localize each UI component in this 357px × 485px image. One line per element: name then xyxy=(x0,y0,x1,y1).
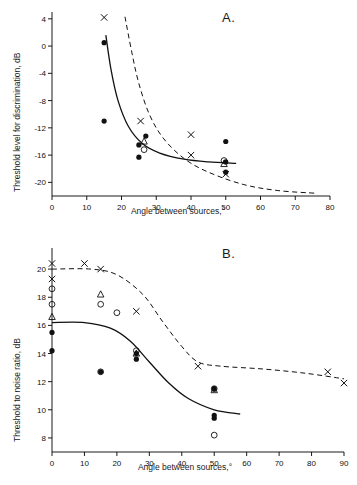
panel-b-ylabel: Threshold to noise ratio, dB xyxy=(12,338,22,442)
svg-text:0: 0 xyxy=(42,42,47,51)
svg-text:70: 70 xyxy=(275,459,284,468)
panel-a-ylabel: Threshold level for discrimination, dB xyxy=(12,53,22,192)
svg-text:80: 80 xyxy=(326,203,335,212)
panel-a-xlabel: Angle between sources,° xyxy=(88,206,268,216)
svg-text:0: 0 xyxy=(50,203,55,212)
panel-a-label: A. xyxy=(222,10,235,25)
svg-text:-8: -8 xyxy=(39,97,47,106)
svg-text:16: 16 xyxy=(37,321,46,330)
svg-text:-12: -12 xyxy=(34,124,46,133)
svg-text:0: 0 xyxy=(50,459,55,468)
panel-a: A. 0102030405060708040-4-8-12-16-20 Angl… xyxy=(0,0,357,225)
panel-b: B. 01020304050607080902018161412108 Angl… xyxy=(0,230,357,485)
svg-text:-4: -4 xyxy=(39,69,47,78)
panel-b-label: B. xyxy=(222,246,235,261)
svg-text:8: 8 xyxy=(42,434,47,443)
figure-container: A. 0102030405060708040-4-8-12-16-20 Angl… xyxy=(0,0,357,485)
svg-text:4: 4 xyxy=(42,15,47,24)
panel-b-xlabel: Angle between sources,° xyxy=(95,462,275,472)
svg-text:10: 10 xyxy=(37,406,46,415)
svg-text:18: 18 xyxy=(37,293,46,302)
svg-text:10: 10 xyxy=(80,459,89,468)
svg-text:14: 14 xyxy=(37,350,46,359)
panel-a-plot: 0102030405060708040-4-8-12-16-20 xyxy=(0,0,357,225)
svg-text:20: 20 xyxy=(37,265,46,274)
svg-text:-20: -20 xyxy=(34,178,46,187)
svg-text:90: 90 xyxy=(340,459,349,468)
svg-text:80: 80 xyxy=(307,459,316,468)
svg-text:12: 12 xyxy=(37,378,46,387)
panel-b-plot: 01020304050607080902018161412108 xyxy=(0,230,357,485)
svg-text:-16: -16 xyxy=(34,151,46,160)
svg-text:70: 70 xyxy=(291,203,300,212)
